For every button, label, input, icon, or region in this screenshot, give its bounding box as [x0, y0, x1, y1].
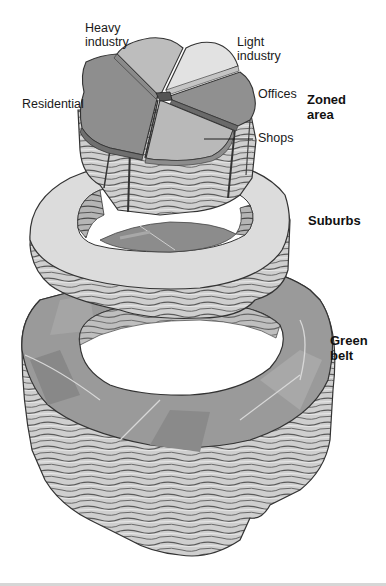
label-zoned-area-line1: Zoned: [307, 92, 346, 107]
label-light-industry-line1: Light: [237, 35, 281, 49]
label-shops: Shops: [258, 131, 293, 145]
label-residential: Residential: [22, 97, 84, 111]
label-offices: Offices: [258, 87, 297, 101]
label-heavy-industry-line2: industry: [85, 35, 129, 49]
label-offices-line1: Offices: [258, 87, 297, 101]
label-green-belt-line1: Green: [330, 333, 368, 348]
label-green-belt-line2: belt: [330, 348, 368, 363]
label-residential-line1: Residential: [22, 97, 84, 111]
zoned-area-disk: [78, 38, 256, 215]
label-suburbs: Suburbs: [308, 213, 361, 228]
label-light-industry: Light industry: [237, 35, 281, 63]
label-green-belt: Green belt: [330, 333, 368, 363]
label-heavy-industry-line1: Heavy: [85, 21, 129, 35]
label-zoned-area-line2: area: [307, 107, 346, 122]
label-shops-line1: Shops: [258, 131, 293, 145]
zoning-illustration: [0, 0, 386, 586]
label-suburbs-line1: Suburbs: [308, 213, 361, 228]
label-heavy-industry: Heavy industry: [85, 21, 129, 49]
label-light-industry-line2: industry: [237, 49, 281, 63]
label-zoned-area: Zoned area: [307, 92, 346, 122]
zoning-diagram: Heavy industry Light industry Offices Sh…: [0, 0, 386, 586]
